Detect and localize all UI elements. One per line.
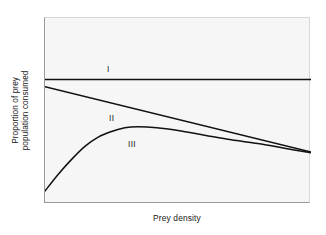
y-axis-label: Proportion of prey population consumed [12,70,33,150]
curve-label-ii: II [109,114,114,123]
curve-type-iii [45,127,311,191]
functional-response-chart: Proportion of prey population consumed I… [0,0,326,235]
curves-layer [45,18,311,204]
x-axis-label: Prey density [44,213,310,223]
y-axis-label-line-2: population consumed [22,70,32,150]
plot-area [44,17,310,203]
y-axis-label-container: Proportion of prey population consumed [0,0,44,220]
y-axis-label-line-1: Proportion of prey [12,70,22,150]
curve-type-ii [45,87,311,152]
curve-label-i: I [107,65,110,74]
curve-label-iii: III [128,140,136,149]
